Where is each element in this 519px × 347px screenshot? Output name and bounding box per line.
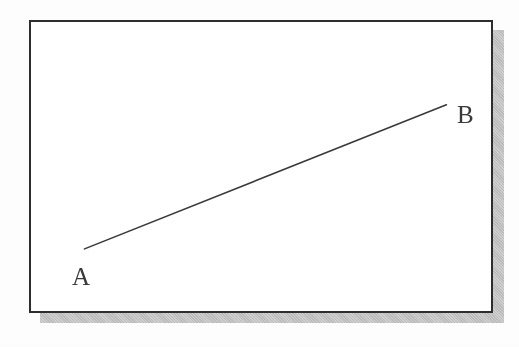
point-label-a: A <box>72 264 91 289</box>
figure-drawing-canvas <box>31 22 491 311</box>
point-label-b: B <box>457 102 474 127</box>
figure-rectangular-frame: A B <box>29 20 493 313</box>
line-segment-ab <box>85 105 447 249</box>
